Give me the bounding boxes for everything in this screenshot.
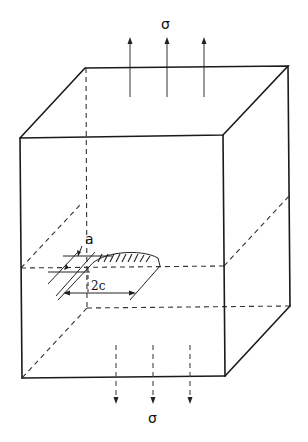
crack-length-label: 2c: [91, 279, 106, 293]
stress-label-top: σ: [161, 16, 170, 32]
hidden-edges: [22, 68, 290, 378]
surface-crack-diagram: σ: [0, 0, 308, 442]
bottom-stress-arrows: [114, 345, 193, 404]
block-visible-edges: [20, 66, 290, 378]
stress-label-bottom: σ: [148, 410, 157, 426]
crack-depth-label: a: [85, 231, 94, 247]
surface-crack: [90, 252, 160, 266]
crack-plane-section: [21, 196, 289, 268]
crack-length-dimension: [58, 266, 160, 300]
